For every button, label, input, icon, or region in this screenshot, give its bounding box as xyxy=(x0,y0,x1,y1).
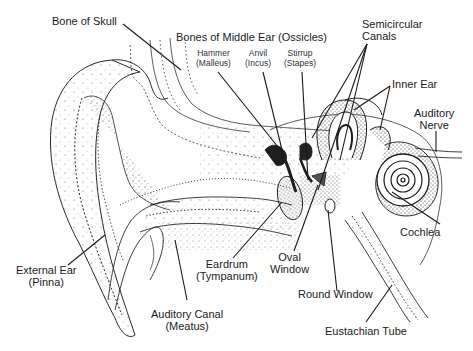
label-anvil-incus: Anvil (Incus) xyxy=(245,48,271,68)
label-semicircular-canals: Semicircular Canals xyxy=(362,18,423,42)
label-round-window: Round Window xyxy=(298,288,373,300)
label-bones-of-middle-ear: Bones of Middle Ear (Ossicles) xyxy=(176,31,327,43)
label-oval-window: Oval Window xyxy=(270,251,309,275)
round-window-shape xyxy=(325,199,335,213)
label-stirrup-stapes: Stirrup (Stapes) xyxy=(284,48,316,68)
label-bone-of-skull: Bone of Skull xyxy=(52,15,117,27)
label-eardrum-tympanum: Eardrum (Tympanum) xyxy=(196,258,258,282)
label-eustachian-tube: Eustachian Tube xyxy=(325,325,407,337)
cochlea-shape xyxy=(376,142,438,216)
label-hammer-malleus: Hammer (Malleus) xyxy=(196,48,231,68)
label-auditory-nerve: Auditory Nerve xyxy=(414,107,454,131)
label-external-ear-pinna: External Ear (Pinna) xyxy=(16,264,77,288)
ear-anatomy-diagram: Bone of Skull Bones of Middle Ear (Ossic… xyxy=(0,0,473,351)
label-inner-ear: Inner Ear xyxy=(392,78,437,90)
label-auditory-canal-meatus: Auditory Canal (Meatus) xyxy=(151,308,223,332)
label-cochlea: Cochlea xyxy=(400,226,440,238)
pinna-shape xyxy=(50,60,180,337)
semicircular-canals-shape xyxy=(317,98,390,160)
ear-cross-section-illustration xyxy=(0,0,473,351)
